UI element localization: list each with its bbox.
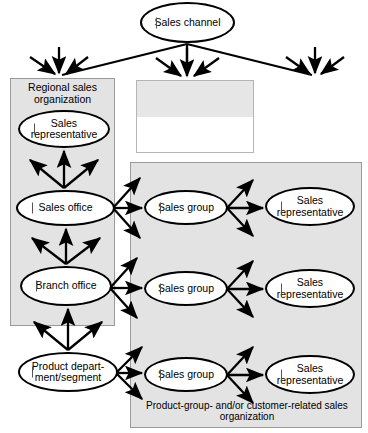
- edge-channel-to-right: [187, 44, 312, 75]
- arrow-salesgroup1-fan-down: [227, 208, 253, 236]
- node-label: Sales group: [155, 202, 217, 213]
- node-sales-representative-3[interactable]: Sales representative: [265, 355, 355, 394]
- node-sales-office[interactable]: Sales office: [16, 190, 115, 226]
- arrow-into-left-2: [30, 57, 55, 74]
- arrow-into-middle-3: [194, 58, 219, 76]
- arrow-salesgroup2-fan-up: [227, 261, 253, 289]
- node-sales-group-2[interactable]: Sales group: [144, 271, 228, 306]
- text-caret-icon: [32, 367, 33, 378]
- arrow-product-fan-right-down: [116, 373, 142, 399]
- arrow-office-fan-right-down: [113, 208, 140, 238]
- node-sales-representative-2[interactable]: Sales representative: [265, 269, 355, 308]
- node-label: Sales representative: [267, 195, 353, 218]
- node-label: Sales group: [155, 369, 217, 380]
- arrow-salesgroup1-fan-up: [227, 180, 253, 208]
- arrow-branch-fan-upleft: [32, 238, 66, 264]
- node-label: Sales representative: [267, 363, 353, 386]
- node-sales-representative-1[interactable]: Sales representative: [265, 187, 355, 226]
- panel-caption-product-group-organization: Product-group- and/or customer-related s…: [140, 400, 354, 422]
- node-branch-office[interactable]: Branch office: [20, 266, 112, 306]
- text-caret-icon: [156, 17, 157, 28]
- text-caret-icon: [160, 202, 161, 213]
- text-caret-icon: [160, 283, 161, 294]
- arrow-into-right-3: [321, 57, 344, 74]
- arrow-office-fan-upright: [64, 160, 98, 188]
- arrow-salesgroup2-fan-down: [227, 289, 253, 317]
- text-caret-icon: [281, 283, 282, 294]
- arrow-office-fan-upleft: [30, 160, 64, 188]
- arrow-product-fan-upright: [68, 322, 102, 350]
- arrow-branch-fan-upright: [66, 238, 100, 264]
- arrow-salesgroup3-fan-down: [227, 375, 253, 403]
- text-caret-icon: [32, 203, 33, 214]
- text-caret-icon: [281, 201, 282, 212]
- panel-caption-regional-sales-organization: Regional sales organization: [12, 82, 113, 106]
- arrow-product-fan-upleft: [34, 322, 68, 350]
- sales-channel-diagram: Regional sales organization Product-grou…: [0, 0, 368, 433]
- text-caret-icon: [281, 369, 282, 380]
- text-caret-icon: [34, 124, 35, 135]
- arrow-branch-fan-right-up: [110, 258, 137, 288]
- node-label: Sales channel: [152, 17, 224, 28]
- arrow-office-fan-right-up: [113, 178, 140, 208]
- arrow-into-middle-2: [156, 58, 181, 76]
- node-sales-group-3[interactable]: Sales group: [144, 357, 228, 392]
- node-label: Branch office: [32, 280, 99, 291]
- node-label: Sales group: [155, 283, 217, 294]
- arrow-product-fan-right-up: [116, 347, 142, 373]
- node-label: Sales representative: [267, 277, 353, 300]
- node-label: Product depart-ment/segment: [20, 361, 116, 384]
- edge-channel-to-left: [62, 44, 187, 75]
- node-sales-group-1[interactable]: Sales group: [144, 190, 228, 225]
- node-label: Sales office: [35, 202, 95, 213]
- node-sales-channel[interactable]: Sales channel: [140, 2, 235, 43]
- node-sales-representative-regional[interactable]: Sales representative: [18, 110, 110, 148]
- node-product-department-segment[interactable]: Product depart-ment/segment: [18, 352, 118, 392]
- text-caret-icon: [160, 369, 161, 380]
- text-caret-icon: [36, 281, 37, 292]
- arrow-branch-fan-right-down: [110, 288, 137, 318]
- arrow-salesgroup3-fan-up: [227, 347, 253, 375]
